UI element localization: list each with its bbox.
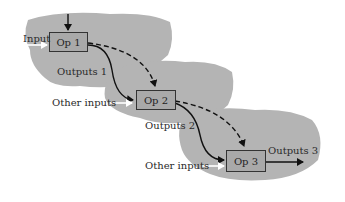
- output-label-op1: Outputs 1: [57, 67, 107, 77]
- input-label-op1: Input: [23, 34, 50, 44]
- output-label-op2: Outputs 2: [145, 121, 195, 131]
- input-label-op3: Other inputs: [145, 161, 209, 171]
- op3-box: Op 3: [226, 150, 266, 172]
- input-label-op2: Other inputs: [52, 98, 116, 108]
- op2-box: Op 2: [136, 90, 176, 110]
- output-label-op3: Outputs 3: [268, 146, 318, 156]
- op1-box: Op 1: [49, 32, 88, 52]
